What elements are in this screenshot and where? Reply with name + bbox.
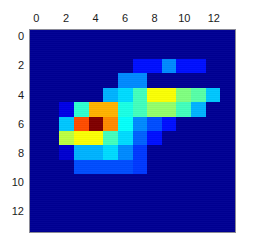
heatmap-cell	[206, 73, 221, 87]
heatmap-cell	[162, 59, 177, 73]
heatmap-cell	[118, 203, 133, 217]
x-tick-label: 0	[33, 13, 39, 24]
heatmap-cell	[133, 189, 148, 203]
heatmap-cell	[191, 44, 206, 58]
heatmap-cell	[59, 145, 74, 159]
heatmap-cell	[220, 174, 235, 188]
heatmap-cell	[45, 30, 60, 44]
x-tick-label: 6	[122, 13, 128, 24]
heatmap-cell	[74, 203, 89, 217]
heatmap-cell	[45, 189, 60, 203]
heatmap-cell	[206, 59, 221, 73]
heatmap-cell	[30, 30, 45, 44]
heatmap-cell	[74, 102, 89, 116]
heatmap-cell	[191, 218, 206, 232]
heatmap-cell	[191, 30, 206, 44]
heatmap-cell	[147, 73, 162, 87]
heatmap-cell	[103, 73, 118, 87]
heatmap-cell	[206, 174, 221, 188]
heatmap-cell	[162, 102, 177, 116]
heatmap-cell	[220, 218, 235, 232]
heatmap-cell	[191, 117, 206, 131]
heatmap-cell	[74, 117, 89, 131]
heatmap-cell	[103, 218, 118, 232]
heatmap-cell	[206, 117, 221, 131]
heatmap-cell	[191, 131, 206, 145]
heatmap-cell	[133, 174, 148, 188]
heatmap-cell	[118, 160, 133, 174]
heatmap-cell	[45, 59, 60, 73]
heatmap-cell	[45, 88, 60, 102]
heatmap-cell	[162, 131, 177, 145]
heatmap-cell	[89, 44, 104, 58]
heatmap-cell	[59, 174, 74, 188]
heatmap-cell	[176, 117, 191, 131]
heatmap-cell	[133, 117, 148, 131]
heatmap-cell	[118, 88, 133, 102]
heatmap-cell	[147, 102, 162, 116]
heatmap-cell	[89, 73, 104, 87]
heatmap-cell	[30, 88, 45, 102]
heatmap-cell	[176, 203, 191, 217]
heatmap-cell	[89, 88, 104, 102]
heatmap-cell	[133, 73, 148, 87]
heatmap-cell	[118, 59, 133, 73]
heatmap-cell	[74, 174, 89, 188]
heatmap-cell	[133, 102, 148, 116]
heatmap-cell	[147, 160, 162, 174]
heatmap-cell	[59, 218, 74, 232]
heatmap-cell	[162, 117, 177, 131]
heatmap-cell	[118, 218, 133, 232]
heatmap-cell	[220, 203, 235, 217]
heatmap-cell	[30, 174, 45, 188]
heatmap-cell	[191, 73, 206, 87]
heatmap-cell	[74, 189, 89, 203]
y-tick-label: 12	[12, 206, 24, 217]
heatmap-cell	[133, 30, 148, 44]
heatmap-cell	[133, 145, 148, 159]
heatmap-cell	[162, 88, 177, 102]
heatmap-cell	[162, 44, 177, 58]
heatmap-grid	[30, 30, 235, 232]
heatmap-cell	[220, 73, 235, 87]
heatmap-cell	[147, 203, 162, 217]
heatmap-cell	[103, 102, 118, 116]
heatmap-cell	[59, 88, 74, 102]
heatmap-cell	[103, 131, 118, 145]
heatmap-cell	[176, 145, 191, 159]
heatmap-cell	[220, 102, 235, 116]
heatmap-cell	[191, 145, 206, 159]
heatmap-cell	[103, 174, 118, 188]
heatmap-cell	[176, 102, 191, 116]
heatmap-cell	[147, 88, 162, 102]
heatmap-cell	[206, 218, 221, 232]
heatmap-cell	[74, 88, 89, 102]
heatmap-cell	[89, 160, 104, 174]
heatmap-cell	[176, 218, 191, 232]
heatmap-cell	[89, 218, 104, 232]
heatmap-cell	[74, 30, 89, 44]
heatmap-cell	[147, 44, 162, 58]
heatmap-cell	[133, 88, 148, 102]
heatmap-cell	[176, 189, 191, 203]
heatmap-cell	[118, 30, 133, 44]
heatmap-cell	[206, 131, 221, 145]
heatmap-cell	[162, 218, 177, 232]
heatmap-cell	[89, 102, 104, 116]
heatmap-cell	[89, 189, 104, 203]
heatmap-cell	[59, 102, 74, 116]
heatmap-cell	[176, 174, 191, 188]
heatmap-plot-area	[29, 29, 236, 233]
heatmap-cell	[30, 102, 45, 116]
heatmap-cell	[30, 189, 45, 203]
heatmap-cell	[133, 218, 148, 232]
heatmap-cell	[133, 131, 148, 145]
heatmap-cell	[191, 102, 206, 116]
heatmap-cell	[176, 88, 191, 102]
heatmap-cell	[206, 88, 221, 102]
heatmap-cell	[89, 30, 104, 44]
heatmap-cell	[176, 160, 191, 174]
y-tick-label: 0	[18, 31, 24, 42]
heatmap-cell	[103, 145, 118, 159]
heatmap-cell	[74, 73, 89, 87]
